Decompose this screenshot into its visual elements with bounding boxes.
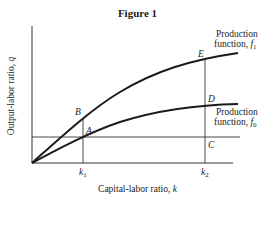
f1-label-line2: function, f1 xyxy=(214,39,258,52)
production-function-f0-curve xyxy=(32,104,238,163)
y-axis-label: Output-labor ratio, q xyxy=(6,57,16,135)
point-b-label: B xyxy=(75,107,81,117)
point-a-label: A xyxy=(86,126,92,136)
tick-k2: k2 xyxy=(201,167,209,180)
point-e-label: E xyxy=(198,49,204,59)
x-axis-label: Capital-labor ratio, k xyxy=(0,184,275,194)
point-c-label: C xyxy=(208,140,214,150)
f0-label-line2: function, f0 xyxy=(214,117,258,130)
f0-label-line1: Production xyxy=(214,107,258,117)
f1-label-line1: Production xyxy=(214,29,258,39)
point-d-label: D xyxy=(208,94,215,104)
tick-k1: k1 xyxy=(79,167,87,180)
f0-label: Production function, f0 xyxy=(214,107,258,130)
f1-label: Production function, f1 xyxy=(214,29,258,52)
